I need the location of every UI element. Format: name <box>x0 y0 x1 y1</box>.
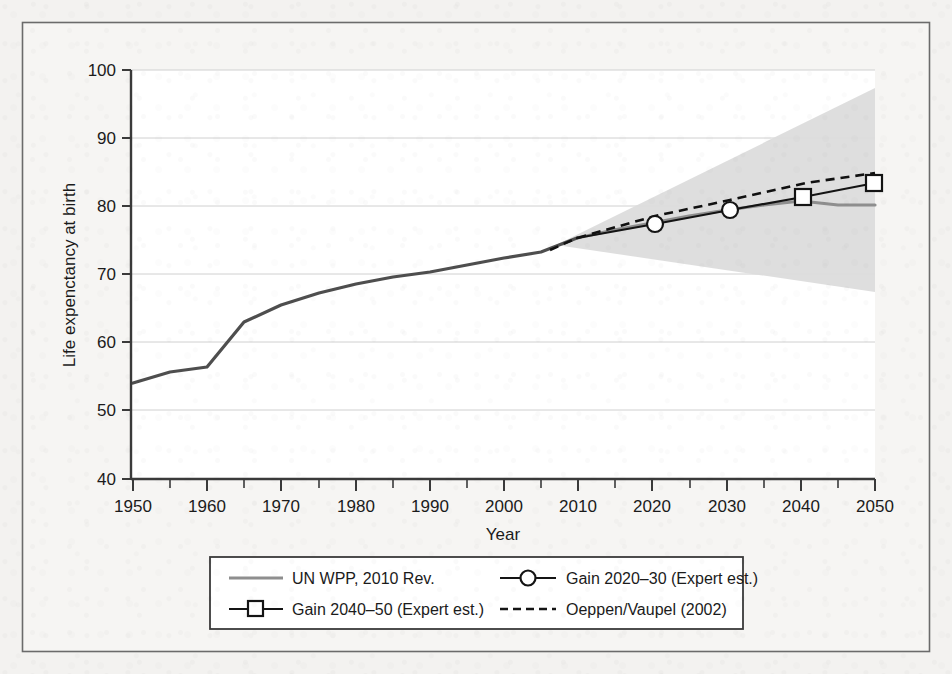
marker-point-2050 <box>866 175 882 191</box>
legend-box <box>210 557 743 629</box>
x-tick-label: 2010 <box>559 497 597 516</box>
legend-label: Gain 2020–30 (Expert est.) <box>566 570 758 587</box>
marker-point-2020 <box>647 216 663 232</box>
x-tick-label: 1950 <box>114 497 152 516</box>
x-tick-label: 2020 <box>633 497 671 516</box>
x-tick-label: 2030 <box>708 497 746 516</box>
marker-point-2030 <box>722 202 738 218</box>
life-expectancy-chart: 100 90 80 70 60 50 40 <box>0 0 952 674</box>
legend-square-icon <box>248 601 263 616</box>
x-tick-label: 1960 <box>188 497 226 516</box>
marker-point-2040 <box>795 189 811 205</box>
legend-label: Oeppen/Vaupel (2002) <box>566 601 727 618</box>
x-tick-label: 1990 <box>411 497 449 516</box>
y-tick-label: 90 <box>97 129 116 148</box>
y-tick-label: 70 <box>97 265 116 284</box>
y-tick-label: 40 <box>97 470 116 489</box>
legend-label: Gain 2040–50 (Expert est.) <box>292 601 484 618</box>
y-tick-label: 80 <box>97 197 116 216</box>
x-tick-label: 1970 <box>262 497 300 516</box>
x-tick-label: 2000 <box>485 497 523 516</box>
legend-circle-icon <box>521 571 536 586</box>
x-tick-label: 2040 <box>782 497 820 516</box>
legend-label: UN WPP, 2010 Rev. <box>292 570 435 587</box>
y-axis-title: Life expenctancy at birth <box>60 183 79 367</box>
y-tick-label: 50 <box>97 401 116 420</box>
figure-container: 100 90 80 70 60 50 40 <box>0 0 952 674</box>
y-tick-label: 60 <box>97 333 116 352</box>
y-tick-label: 100 <box>88 61 116 80</box>
x-tick-label: 1980 <box>337 497 375 516</box>
x-axis-title: Year <box>486 525 521 544</box>
x-tick-label: 2050 <box>856 497 894 516</box>
